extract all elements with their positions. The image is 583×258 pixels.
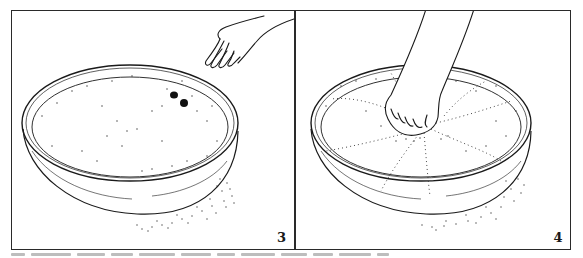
bowl-3 xyxy=(22,65,238,214)
shadow-stipple xyxy=(136,178,234,231)
panel-3: 3 xyxy=(12,11,294,249)
panel-number: 4 xyxy=(553,230,562,245)
pointing-hand-icon xyxy=(205,16,294,68)
bowl-illustration-4 xyxy=(296,11,571,249)
caption-cutoff xyxy=(11,253,441,258)
scattered-grains xyxy=(41,75,217,171)
bowl-illustration-3 xyxy=(12,11,294,249)
panel-number: 3 xyxy=(277,230,286,245)
panel-4: 4 xyxy=(296,11,571,249)
dark-spots xyxy=(170,92,188,108)
pressing-hand-icon xyxy=(385,11,474,135)
figure-frame: 3 xyxy=(11,10,571,250)
